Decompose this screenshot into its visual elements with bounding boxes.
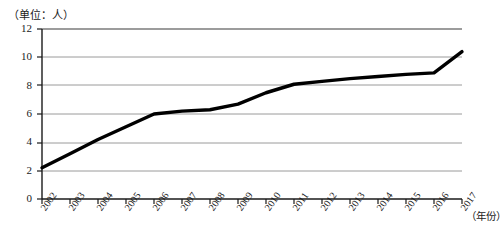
y-tick-label: 6	[6, 108, 32, 119]
y-axis-ticks	[37, 29, 42, 199]
x-axis-title: （年份）	[466, 208, 504, 223]
y-tick-label: 10	[6, 51, 32, 62]
data-series-line	[42, 52, 462, 168]
y-tick-label: 4	[6, 136, 32, 147]
y-tick-label: 0	[6, 193, 32, 204]
y-tick-label: 8	[6, 80, 32, 91]
y-tick-label: 2	[6, 165, 32, 176]
y-tick-label: 12	[6, 23, 32, 34]
